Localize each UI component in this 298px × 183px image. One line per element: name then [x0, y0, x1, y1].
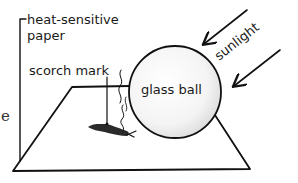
label-paper-line2: paper — [27, 28, 65, 43]
edge-text-fragment: e — [1, 107, 10, 125]
label-sunlight: sunlight — [212, 19, 262, 63]
sundial-scorch-diagram: e heat-sensitive paper scorch mark glass… — [0, 0, 298, 183]
label-glass-ball: glass ball — [141, 82, 202, 97]
label-paper-line1: heat-sensitive — [27, 12, 119, 27]
paper-label-bracket — [20, 19, 26, 161]
heat-wisp-lower — [121, 105, 124, 131]
label-scorch-mark: scorch mark — [29, 63, 109, 78]
scorch-tail — [127, 131, 136, 137]
heat-wisp-right — [125, 97, 127, 111]
scorch-leader-dot — [106, 123, 109, 126]
sunlight-arrow-lower — [234, 50, 280, 86]
